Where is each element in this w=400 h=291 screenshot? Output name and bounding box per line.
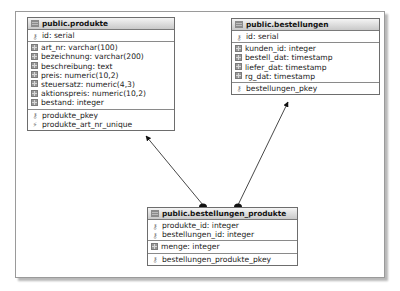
table-icon [151, 210, 159, 217]
unique-constraint-icon: ⚡ [31, 121, 39, 129]
column-row[interactable]: aktionspreis: numeric(10,2) [28, 89, 174, 98]
column-icon [235, 72, 242, 79]
column-icon [31, 71, 38, 78]
column-label: preis: numeric(10,2) [41, 71, 118, 80]
column-label: art_nr: varchar(100) [41, 43, 118, 52]
key-icon: ⚷ [151, 256, 159, 264]
column-row[interactable]: beschreibung: text [28, 62, 174, 71]
columns-section: art_nr: varchar(100) bezeichnung: varcha… [28, 42, 174, 109]
key-icon: ⚷ [31, 112, 39, 120]
column-label: kunden_id: integer [245, 44, 316, 53]
relationship-produkte[interactable] [146, 136, 207, 207]
column-label: steuersatz: numeric(4,3) [41, 80, 135, 89]
constraints-section: ⚷produkte_pkey ⚡produkte_art_nr_unique [28, 110, 174, 130]
column-label: rg_dat: timestamp [245, 72, 315, 81]
column-icon [235, 54, 242, 61]
column-label: bestand: integer [41, 98, 104, 107]
column-icon [31, 44, 38, 51]
column-label: menge: integer [161, 242, 220, 251]
key-icon: ⚷ [151, 223, 159, 231]
column-row[interactable]: ⚷produkte_id: integer [148, 221, 297, 230]
column-label: bestell_dat: timestamp [245, 53, 333, 62]
column-label: id: serial [42, 31, 75, 40]
table-bestellungen-produkte[interactable]: public.bestellungen_produkte ⚷produkte_i… [147, 207, 298, 266]
column-row[interactable]: art_nr: varchar(100) [28, 43, 174, 52]
column-row[interactable]: ⚷bestellungen_id: integer [148, 230, 297, 239]
columns-section: kunden_id: integer bestell_dat: timestam… [232, 43, 379, 83]
column-label: bestellungen_id: integer [162, 230, 254, 239]
constraint-label: bestellungen_pkey [246, 84, 317, 93]
table-header[interactable]: public.bestellungen_produkte [148, 208, 297, 220]
column-label: produkte_id: integer [162, 221, 239, 230]
column-row[interactable]: ⚷id: serial [28, 31, 174, 40]
table-produkte[interactable]: public.produkte ⚷id: serial art_nr: varc… [27, 17, 175, 131]
table-header[interactable]: public.bestellungen [232, 19, 379, 31]
column-icon [235, 45, 242, 52]
table-title: public.bestellungen_produkte [162, 209, 286, 218]
key-columns-section: ⚷produkte_id: integer ⚷bestellungen_id: … [148, 220, 297, 241]
column-icon [31, 62, 38, 69]
constraint-row[interactable]: ⚷bestellungen_pkey [232, 84, 379, 93]
constraint-row[interactable]: ⚷produkte_pkey [28, 111, 174, 120]
column-label: id: serial [246, 32, 279, 41]
table-bestellungen[interactable]: public.bestellungen ⚷id: serial kunden_i… [231, 18, 380, 95]
column-row[interactable]: bezeichnung: varchar(200) [28, 52, 174, 61]
constraint-label: bestellungen_produkte_pkey [162, 255, 271, 264]
column-row[interactable]: preis: numeric(10,2) [28, 71, 174, 80]
constraint-row[interactable]: ⚷bestellungen_produkte_pkey [148, 255, 297, 264]
column-row[interactable]: bestand: integer [28, 98, 174, 107]
column-row[interactable]: liefer_dat: timestamp [232, 63, 379, 72]
column-row[interactable]: bestell_dat: timestamp [232, 53, 379, 62]
constraint-label: produkte_art_nr_unique [42, 120, 132, 129]
column-row[interactable]: menge: integer [148, 242, 297, 251]
key-icon: ⚷ [235, 85, 243, 93]
column-icon [31, 53, 38, 60]
column-label: bezeichnung: varchar(200) [41, 52, 144, 61]
constraint-row[interactable]: ⚡produkte_art_nr_unique [28, 120, 174, 129]
table-icon [235, 21, 243, 28]
table-icon [31, 20, 39, 27]
constraints-section: ⚷bestellungen_produkte_pkey [148, 254, 297, 265]
column-label: liefer_dat: timestamp [245, 63, 327, 72]
table-title: public.produkte [42, 19, 108, 28]
key-columns-section: ⚷id: serial [28, 30, 174, 42]
column-label: aktionspreis: numeric(10,2) [41, 89, 146, 98]
key-icon: ⚷ [151, 232, 159, 240]
constraint-label: produkte_pkey [42, 111, 98, 120]
column-icon [31, 99, 38, 106]
column-row[interactable]: rg_dat: timestamp [232, 72, 379, 81]
relationship-bestellungen[interactable] [234, 102, 288, 207]
column-icon [235, 63, 242, 70]
key-columns-section: ⚷id: serial [232, 31, 379, 43]
key-icon: ⚷ [31, 33, 39, 41]
column-icon [31, 80, 38, 87]
table-header[interactable]: public.produkte [28, 18, 174, 30]
constraints-section: ⚷bestellungen_pkey [232, 83, 379, 94]
column-row[interactable]: ⚷id: serial [232, 32, 379, 41]
columns-section: menge: integer [148, 241, 297, 253]
column-row[interactable]: steuersatz: numeric(4,3) [28, 80, 174, 89]
column-icon [31, 90, 38, 97]
key-icon: ⚷ [235, 34, 243, 42]
column-row[interactable]: kunden_id: integer [232, 44, 379, 53]
column-icon [151, 243, 158, 250]
column-label: beschreibung: text [41, 62, 112, 71]
table-title: public.bestellungen [246, 20, 329, 29]
